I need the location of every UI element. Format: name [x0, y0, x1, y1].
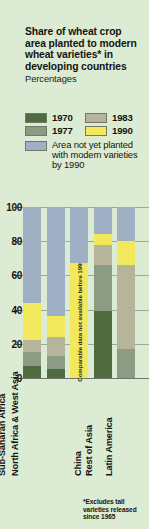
legend-swatch-1990 — [85, 126, 107, 136]
chart-header: Share of wheat crop area planted to mode… — [25, 26, 143, 84]
x-axis-label-text: Rest of Asia — [84, 425, 94, 476]
bar-segment-not-planted — [23, 207, 41, 303]
legend-label-1983: 1983 — [112, 113, 133, 123]
x-axis-label-latin-america: Latin America — [117, 384, 135, 479]
x-axis-label-sub-saharan-africa: Sub-Saharan Africa — [23, 384, 41, 479]
gridline-0 — [22, 378, 149, 379]
bar-segment-1990 — [94, 234, 112, 244]
legend-swatch-1970 — [25, 113, 47, 123]
bar-segment-not-planted — [70, 207, 88, 263]
legend-label-1970: 1970 — [52, 113, 73, 123]
chart-footnote: *Excludes tall varieties released since … — [83, 498, 145, 521]
bars-container: Comparable data not available before 199… — [22, 207, 149, 378]
chart-title: Share of wheat crop area planted to mode… — [25, 26, 143, 72]
x-axis-label-text: China — [73, 451, 83, 476]
bar-segment-1990: Comparable data not available before 199… — [70, 263, 88, 378]
x-axis-label-text: Latin America — [104, 417, 114, 476]
x-axis-label-north-africa-west-asia: North Africa & West Asia — [47, 384, 65, 479]
plot-area: 020406080100 Comparable data not availab… — [0, 200, 149, 385]
x-axis-labels: Sub-Saharan AfricaNorth Africa & West As… — [22, 384, 149, 479]
bar-segment-1970 — [94, 311, 112, 378]
bar-china: Comparable data not available before 199… — [70, 207, 88, 378]
bar-segment-1983 — [47, 337, 65, 356]
bar-segment-1977 — [47, 356, 65, 370]
y-tick-mark-80 — [14, 241, 22, 242]
legend-item-1977: 1977 — [25, 126, 85, 136]
chart-subtitle: Percentages — [25, 74, 143, 84]
bar-latin-america — [117, 207, 135, 378]
bar-rest-of-asia — [94, 207, 112, 378]
y-tick-mark-100 — [14, 207, 22, 208]
bar-segment-1990 — [23, 303, 41, 341]
legend-item-1983: 1983 — [85, 113, 145, 123]
legend-swatch-1983 — [85, 113, 107, 123]
bar-segment-1990 — [47, 316, 65, 337]
bar-annotation-label: Comparable data not available before 199… — [76, 260, 83, 381]
legend-label-1990: 1990 — [112, 126, 133, 136]
bar-segment-1983 — [94, 245, 112, 266]
bar-segment-1977 — [23, 352, 41, 366]
legend-item-1970: 1970 — [25, 113, 85, 123]
bar-sub-saharan-africa — [23, 207, 41, 378]
legend-row: 1977 1990 — [25, 126, 145, 136]
chart-legend: 1970 1983 1977 1990 Area not yet planted… — [25, 113, 145, 171]
x-axis-label-text: North Africa & West Asia — [10, 372, 20, 476]
legend-row: 1970 1983 — [25, 113, 145, 123]
bar-segment-not-planted — [47, 207, 65, 316]
legend-label-1977: 1977 — [52, 126, 73, 136]
y-tick-mark-40 — [14, 310, 22, 311]
legend-item-not-planted: Area not yet planted with modern varieti… — [25, 140, 145, 171]
legend-swatch-not-planted — [25, 141, 47, 151]
legend-item-1990: 1990 — [85, 126, 145, 136]
legend-label-not-planted: Area not yet planted with modern varieti… — [52, 140, 145, 171]
bar-segment-1970 — [23, 366, 41, 378]
bar-segment-1983 — [117, 265, 135, 349]
chart-figure: Share of wheat crop area planted to mode… — [0, 0, 149, 529]
bar-north-africa-west-asia — [47, 207, 65, 378]
bar-segment-1977 — [117, 349, 135, 378]
bar-segment-not-planted — [94, 207, 112, 234]
bar-segment-1990 — [117, 241, 135, 265]
bar-segment-1977 — [94, 265, 112, 311]
y-tick-mark-60 — [14, 275, 22, 276]
bar-segment-1983 — [23, 340, 41, 352]
legend-swatch-1977 — [25, 126, 47, 136]
y-tick-mark-20 — [14, 344, 22, 345]
bar-segment-not-planted — [117, 207, 135, 241]
bar-segment-1970 — [47, 369, 65, 378]
x-axis-label-text: Sub-Saharan Africa — [0, 394, 7, 476]
